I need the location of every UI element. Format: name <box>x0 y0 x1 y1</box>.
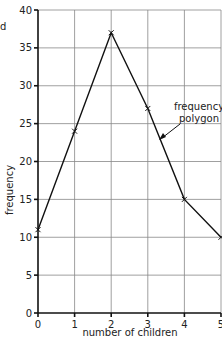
x-tick-label: 1 <box>71 319 77 330</box>
polygon-line <box>38 33 221 238</box>
y-tick-label: 30 <box>19 80 32 91</box>
y-tick-label: 35 <box>19 42 32 53</box>
grid-lines <box>38 10 221 313</box>
frequency-polygon-line <box>36 30 223 240</box>
annotation-arrow-head <box>159 133 166 140</box>
y-tick-label: 25 <box>19 118 32 129</box>
frequency-polygon-chart: d 0510152025303540 012345 frequency numb… <box>0 0 222 340</box>
y-tick-label: 5 <box>26 270 32 281</box>
y-tick-label: 40 <box>19 5 32 16</box>
x-tick-label: 4 <box>181 319 187 330</box>
annotation-label-line1: frequency <box>174 101 222 112</box>
x-tick-label: 0 <box>35 319 41 330</box>
x-tick-label: 5 <box>218 319 222 330</box>
cropped-fragment-text: d <box>0 21 6 32</box>
y-tick-label: 10 <box>19 232 32 243</box>
x-axis-label: number of children <box>82 327 177 338</box>
y-tick-label: 20 <box>19 156 32 167</box>
y-axis-ticks: 0510152025303540 <box>19 5 38 319</box>
annotation-label-line2: polygon <box>179 113 219 124</box>
y-tick-label: 0 <box>26 308 32 319</box>
annotation: frequencypolygon <box>159 101 222 140</box>
y-tick-label: 15 <box>19 194 32 205</box>
y-axis-label: frequency <box>4 165 15 215</box>
